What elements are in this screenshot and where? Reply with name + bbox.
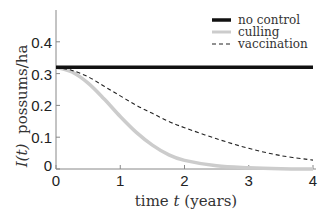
y-tick-label: 0.1 bbox=[31, 129, 52, 146]
x-axis-label: time t (years) bbox=[135, 192, 237, 210]
plot-lines bbox=[56, 67, 313, 169]
chart: 00.10.20.30.4 01234 I(t) possums/ha time… bbox=[0, 0, 329, 214]
y-axis-label: I(t) possums/ha bbox=[13, 45, 31, 169]
x-tick-label: 4 bbox=[309, 172, 317, 189]
line-vaccination bbox=[56, 67, 313, 160]
ylabel-text: possums/ha bbox=[13, 45, 31, 134]
line-culling bbox=[56, 67, 313, 169]
svg-text:I(t) possums/ha: I(t) possums/ha bbox=[13, 45, 31, 169]
ylabel-math: I(t) bbox=[13, 144, 31, 169]
y-tick-label: 0 bbox=[44, 157, 52, 174]
legend: no control culling vaccination bbox=[212, 13, 308, 51]
x-tick-label: 0 bbox=[52, 172, 60, 189]
x-tick-label: 1 bbox=[116, 172, 124, 189]
legend-label-vaccination: vaccination bbox=[237, 37, 308, 51]
y-tick-label: 0.3 bbox=[31, 66, 52, 83]
y-tick-label: 0.4 bbox=[31, 34, 52, 51]
y-tick-label: 0.2 bbox=[31, 97, 52, 114]
x-tick-label: 3 bbox=[245, 172, 253, 189]
x-tick-label: 2 bbox=[180, 172, 188, 189]
